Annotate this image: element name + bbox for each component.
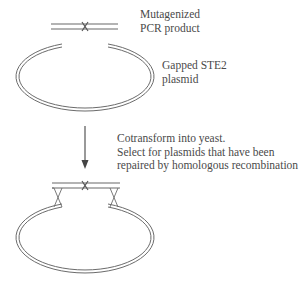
gapped-plasmid-bottom [16, 204, 154, 273]
homologous-recombination-diagram: Mutagenized PCR product Gapped STE2 plas… [0, 0, 305, 284]
step-line-2: Select for plasmids that have been [117, 146, 298, 160]
plasmid-label-line-1: Gapped STE2 [162, 59, 227, 73]
plasmid-label-line-2: plasmid [162, 73, 227, 87]
down-arrow-icon [82, 126, 89, 169]
step-instructions: Cotransform into yeast. Select for plasm… [117, 132, 298, 173]
plasmid-label: Gapped STE2 plasmid [162, 59, 227, 86]
step-line-1: Cotransform into yeast. [117, 132, 298, 146]
pcr-product-label-line-1: Mutagenized [140, 8, 200, 22]
step-line-3: repaired by homologous recombination [117, 159, 298, 173]
pcr-product-label-line-2: PCR product [140, 22, 200, 36]
pcr-product-label: Mutagenized PCR product [140, 8, 200, 35]
pcr-product-top [51, 22, 118, 31]
gapped-plasmid-top [16, 44, 154, 111]
